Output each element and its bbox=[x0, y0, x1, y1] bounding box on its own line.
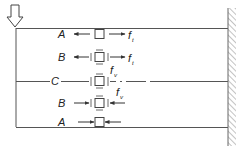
beam-outline bbox=[16, 28, 228, 128]
stress-element bbox=[95, 53, 104, 62]
fixed-wall-support bbox=[228, 8, 236, 146]
stress-element bbox=[95, 99, 104, 108]
stress-element bbox=[95, 77, 104, 86]
row-label: B bbox=[58, 51, 65, 63]
svg-text:v: v bbox=[114, 72, 118, 78]
row-b-upper-tension-shear: B f t bbox=[58, 50, 134, 66]
row-label: B bbox=[58, 97, 65, 109]
row-a-top-tension: A f t bbox=[57, 28, 134, 43]
svg-text:t: t bbox=[132, 37, 134, 43]
svg-text:v: v bbox=[120, 94, 124, 100]
row-c-pure-shear: C f v bbox=[50, 64, 136, 88]
row-b-lower-compression-shear: B f v bbox=[58, 86, 125, 110]
beam-stress-diagram: A f t B f t C f v B bbox=[0, 0, 249, 150]
row-a-bottom-compression: A bbox=[57, 116, 121, 128]
row-label: A bbox=[57, 116, 65, 128]
stress-element bbox=[95, 118, 104, 127]
row-label: C bbox=[51, 75, 59, 87]
down-arrow-icon bbox=[7, 5, 23, 27]
row-label: A bbox=[57, 28, 65, 40]
svg-text:t: t bbox=[132, 60, 134, 66]
stress-element bbox=[95, 30, 104, 39]
